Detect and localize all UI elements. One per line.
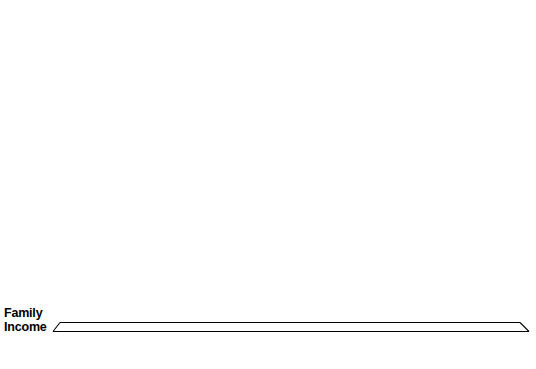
plot-area: $102Under$15,000$292$15,000-$19,999$725$… [0, 0, 536, 369]
bar-chart: Family Income $102Under$15,000$292$15,00… [0, 0, 536, 369]
